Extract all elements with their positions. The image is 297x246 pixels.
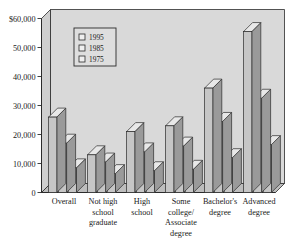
- legend-label: 1975: [89, 55, 104, 64]
- bar-side-face: [262, 89, 271, 192]
- chart-canvas: 010,00020,00030,00040,00050,000$60,000Ov…: [0, 0, 297, 246]
- legend-label: 1985: [89, 44, 104, 53]
- bar-side-face: [271, 136, 280, 193]
- x-axis-category-label: degree: [209, 208, 231, 217]
- bar-side-face: [67, 134, 76, 192]
- bar: [166, 117, 183, 193]
- bar-side-face: [135, 123, 144, 193]
- bar-chart: 010,00020,00030,00040,00050,000$60,000Ov…: [0, 0, 297, 246]
- y-axis-tick-label: 20,000: [13, 131, 36, 140]
- x-axis-category-label: Associate: [165, 218, 197, 227]
- y-axis-tick-label: $60,000: [9, 15, 36, 24]
- legend-swatch: [79, 45, 85, 51]
- x-axis-category-label: Advanced: [242, 197, 275, 206]
- bar: [127, 123, 144, 193]
- bar-side-face: [252, 23, 261, 193]
- x-axis-category-label: Not high: [89, 197, 118, 206]
- legend: 199519851975: [74, 28, 116, 66]
- bar-side-face: [184, 137, 193, 192]
- x-axis-category-label: Bachelor's: [203, 197, 237, 206]
- y-axis-tick-label: 0: [31, 189, 35, 198]
- x-axis-category-label: school: [92, 208, 114, 217]
- bar-front-face: [49, 117, 57, 192]
- y-axis-tick-label: 40,000: [13, 73, 36, 82]
- bar-side-face: [213, 79, 222, 192]
- x-axis-category-label: school: [131, 208, 153, 217]
- bar: [244, 23, 261, 193]
- y-axis-tick-label: 30,000: [13, 102, 36, 111]
- legend-swatch: [79, 56, 85, 62]
- bar-front-face: [205, 88, 213, 192]
- bar-side-face: [223, 112, 232, 192]
- y-axis-tick-label: 10,000: [13, 160, 36, 169]
- legend-label: 1995: [89, 33, 104, 42]
- x-axis-category-label: degree: [248, 208, 270, 217]
- x-axis-category-label: graduate: [89, 218, 118, 227]
- x-axis-category-label: High: [134, 197, 150, 206]
- bar: [88, 146, 105, 193]
- bar-front-face: [244, 32, 252, 193]
- x-axis-category-label: college/: [168, 208, 195, 217]
- bar-front-face: [127, 132, 135, 193]
- bar-side-face: [57, 108, 66, 192]
- bar: [49, 108, 66, 192]
- x-axis-labels: OverallNot highschoolgraduateHighschoolS…: [52, 197, 276, 238]
- bar: [205, 79, 222, 192]
- x-axis-category-label: degree: [170, 229, 192, 238]
- legend-swatch: [79, 34, 85, 40]
- bar-front-face: [166, 126, 174, 193]
- y-axis-tick-label: 50,000: [13, 44, 36, 53]
- bar-front-face: [88, 155, 96, 193]
- x-axis-category-label: Some: [172, 197, 191, 206]
- x-axis-category-label: Overall: [52, 197, 77, 206]
- bar-side-face: [174, 117, 183, 193]
